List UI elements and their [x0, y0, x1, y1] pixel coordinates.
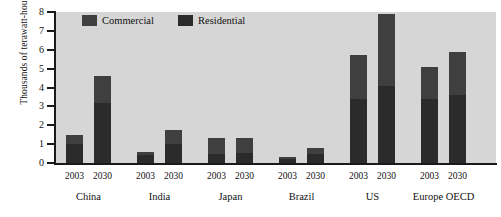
- y-axis-tick: [47, 143, 56, 145]
- bar-segment-residential: [137, 155, 154, 163]
- x-axis-year-label: 2030: [157, 171, 191, 181]
- x-axis-group-label: Europe OECD: [399, 191, 489, 202]
- y-axis-tick-label: 2: [28, 120, 44, 130]
- y-axis-tick-label: 7: [28, 26, 44, 36]
- y-axis-tick-label: 8: [28, 7, 44, 17]
- y-axis-tick: [47, 87, 56, 89]
- bar-segment-commercial: [378, 14, 395, 86]
- y-axis-tick-label: 1: [28, 139, 44, 149]
- bar: [208, 138, 225, 163]
- y-axis-tick-label: 0: [28, 158, 44, 168]
- bar-segment-residential: [449, 95, 466, 163]
- legend-item-commercial: Commercial: [82, 15, 154, 26]
- bar: [137, 152, 154, 163]
- y-axis-tick: [47, 105, 56, 107]
- bar-segment-residential: [307, 154, 324, 163]
- y-axis-tick: [47, 162, 56, 164]
- bar: [94, 76, 111, 163]
- y-axis-tick: [47, 30, 56, 32]
- y-axis-tick-label: 5: [28, 64, 44, 74]
- x-axis-year-label: 2030: [228, 171, 262, 181]
- bar-segment-residential: [378, 86, 395, 163]
- y-axis-tick: [47, 68, 56, 70]
- bar-segment-residential: [350, 99, 367, 163]
- legend-swatch-commercial-icon: [82, 15, 97, 26]
- bar: [307, 148, 324, 163]
- bar-segment-commercial: [350, 55, 367, 98]
- x-axis-year-label: 2030: [370, 171, 404, 181]
- bar: [378, 14, 395, 163]
- bar: [421, 67, 438, 163]
- y-axis-tick: [47, 11, 56, 13]
- bar: [236, 138, 253, 163]
- bar: [350, 55, 367, 163]
- bar-segment-commercial: [165, 130, 182, 144]
- y-axis-tick-label: 3: [28, 101, 44, 111]
- bar-segment-commercial: [307, 148, 324, 154]
- bar-segment-commercial: [94, 76, 111, 102]
- legend-item-residential: Residential: [178, 15, 245, 26]
- bar: [279, 157, 296, 163]
- bar-segment-commercial: [137, 152, 154, 155]
- bar-segment-commercial: [66, 135, 83, 144]
- bar-segment-residential: [208, 154, 225, 163]
- bar-segment-commercial: [236, 138, 253, 153]
- bar: [66, 135, 83, 163]
- y-axis-tick-label: 4: [28, 83, 44, 93]
- bar-segment-commercial: [208, 138, 225, 154]
- x-axis-year-label: 2030: [441, 171, 475, 181]
- y-axis-tick-label: 6: [28, 45, 44, 55]
- bar-segment-commercial: [279, 157, 296, 159]
- bar-segment-commercial: [449, 52, 466, 95]
- bar: [449, 52, 466, 163]
- y-axis-tick: [47, 124, 56, 126]
- bar-segment-residential: [421, 99, 438, 163]
- x-axis-year-label: 2030: [86, 171, 120, 181]
- y-axis-tick: [47, 49, 56, 51]
- legend-label-commercial: Commercial: [102, 15, 154, 26]
- bar-segment-commercial: [421, 67, 438, 99]
- legend-label-residential: Residential: [198, 15, 245, 26]
- bar-segment-residential: [279, 159, 296, 163]
- x-axis-line: [54, 163, 497, 165]
- bar-segment-residential: [236, 153, 253, 163]
- bar-segment-residential: [94, 103, 111, 163]
- x-axis-year-label: 2030: [299, 171, 333, 181]
- bar-segment-residential: [165, 144, 182, 163]
- bar: [165, 130, 182, 163]
- bar-segment-residential: [66, 144, 83, 163]
- energy-consumption-bar-chart: Thousands of terawatt-hours 012345678 Co…: [0, 0, 501, 217]
- legend-swatch-residential-icon: [178, 15, 193, 26]
